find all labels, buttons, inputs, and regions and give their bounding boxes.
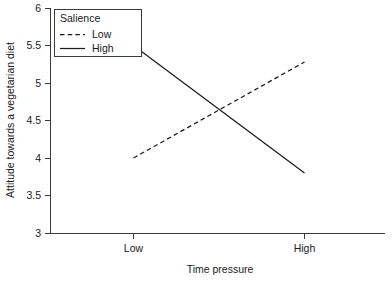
x-tick-label-high: High <box>294 242 316 254</box>
legend-label-high: High <box>92 42 114 54</box>
x-tick-label-low: Low <box>124 242 144 254</box>
legend-label-low: Low <box>92 28 112 40</box>
x-axis-title: Time pressure <box>187 263 254 275</box>
y-tick-label-5: 5 <box>35 77 41 89</box>
plot-canvas: 6 5.5 5 4.5 4 3.5 3 Low High Time pressu… <box>0 0 392 281</box>
series-line-high <box>134 46 305 174</box>
y-tick-label-5.5: 5.5 <box>26 39 41 51</box>
y-tick-label-3.5: 3.5 <box>26 189 41 201</box>
interaction-plot: 6 5.5 5 4.5 4 3.5 3 Low High Time pressu… <box>0 0 392 281</box>
y-tick-label-4.5: 4.5 <box>26 114 41 126</box>
legend: Salience Low High <box>55 10 142 57</box>
legend-title: Salience <box>60 12 100 24</box>
y-tick-label-4: 4 <box>35 152 41 164</box>
y-tick-label-3: 3 <box>35 227 41 239</box>
y-axis-title: Attitude towards a vegetarian diet <box>4 42 16 198</box>
y-tick-label-6: 6 <box>35 2 41 14</box>
